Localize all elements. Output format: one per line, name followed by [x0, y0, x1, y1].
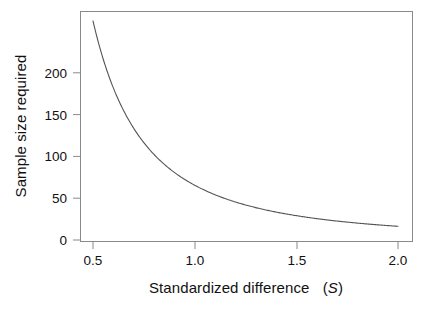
- y-axis-ticks: [73, 73, 80, 240]
- x-axis-tick-labels: 0.5 1.0 1.5 2.0: [84, 253, 408, 268]
- x-axis-title-paren-close: ): [338, 279, 343, 296]
- x-tick-label: 1.5: [288, 253, 307, 268]
- x-tick-label: 0.5: [84, 253, 103, 268]
- plot-frame: [81, 12, 413, 242]
- chart-figure: 0.5 1.0 1.5 2.0 0 50 100 150 200 Sample …: [0, 0, 429, 309]
- y-tick-label: 200: [44, 66, 67, 81]
- x-axis-title: Standardized difference (S): [149, 279, 343, 296]
- y-tick-label: 150: [44, 108, 67, 123]
- data-line-series: [93, 21, 398, 226]
- y-tick-label: 0: [59, 233, 67, 248]
- y-axis-title: Sample size required: [12, 55, 29, 198]
- x-tick-label: 2.0: [389, 253, 408, 268]
- x-axis-ticks: [93, 242, 398, 249]
- y-tick-label: 100: [44, 149, 67, 164]
- x-tick-label: 1.0: [186, 253, 205, 268]
- y-axis-tick-labels: 0 50 100 150 200: [44, 66, 67, 248]
- sample-size-line-chart: 0.5 1.0 1.5 2.0 0 50 100 150 200 Sample …: [0, 0, 429, 309]
- x-axis-title-variable: S: [328, 279, 338, 296]
- x-axis-title-text: Standardized difference: [149, 279, 309, 296]
- y-tick-label: 50: [52, 191, 67, 206]
